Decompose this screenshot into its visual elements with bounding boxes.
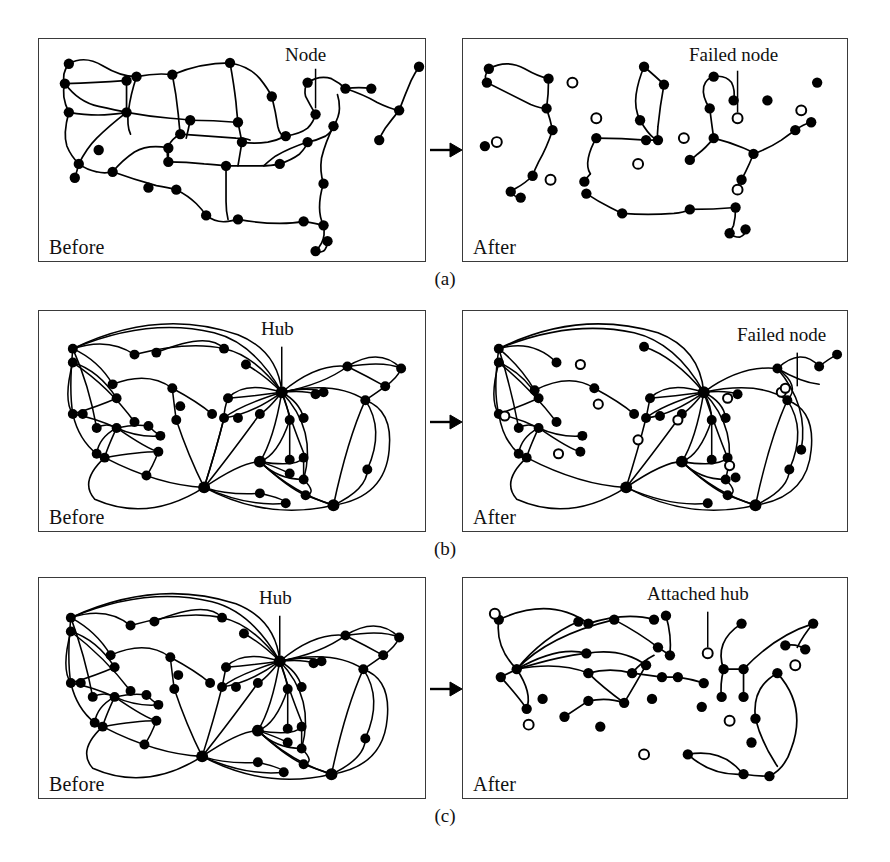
state-label-a-before: Before (49, 237, 105, 257)
node-group-b-after-operational (494, 342, 842, 511)
figure-row-a: Before Node (0, 0, 890, 300)
row-caption-a: (a) (0, 268, 890, 290)
state-label-c-after: After (473, 774, 516, 794)
callout-b-before-hub: Hub (261, 319, 294, 338)
panel-a-before: Before Node (38, 38, 426, 262)
state-label-b-before: Before (49, 507, 105, 527)
row-caption-c: (c) (0, 805, 890, 827)
panel-c-after: After Attached hub (462, 577, 848, 799)
network-graphic-c-before (39, 578, 425, 798)
state-label-a-after: After (473, 237, 516, 257)
network-graphic-b-before (39, 311, 425, 531)
network-graphic-a-before (39, 39, 425, 261)
state-label-b-after: After (473, 507, 516, 527)
node-group-b-before (68, 344, 406, 511)
callout-c-before-hub: Hub (259, 588, 292, 607)
callout-a-after-failed-node: Failed node (689, 45, 778, 64)
panel-c-before: Before Hub (38, 577, 426, 799)
node-group-c-before (66, 613, 404, 780)
figure-container: Before Node (0, 0, 890, 862)
panel-b-before: Before Hub (38, 310, 426, 532)
node-group-c-after-operational (494, 611, 819, 782)
state-label-c-before: Before (49, 774, 105, 794)
node-group-a-after-operational (480, 62, 823, 239)
callout-c-after-attached-hub: Attached hub (647, 584, 749, 603)
figure-row-b: Before Hub (0, 300, 890, 565)
node-group-a-before (60, 58, 425, 257)
panel-b-after: After Failed node (462, 310, 848, 532)
transition-arrow-a (428, 138, 464, 162)
panel-a-after: After Failed node (462, 38, 848, 262)
row-caption-b: (b) (0, 538, 890, 560)
callout-b-after-failed-node: Failed node (737, 325, 826, 344)
network-graphic-c-after (463, 578, 847, 798)
node-group-c-after-failed (490, 609, 800, 760)
callout-a-before-node: Node (285, 45, 326, 64)
figure-row-c: Before Hub (0, 565, 890, 862)
transition-arrow-b (428, 410, 464, 434)
transition-arrow-c (428, 677, 464, 701)
network-graphic-a-after (463, 39, 847, 261)
